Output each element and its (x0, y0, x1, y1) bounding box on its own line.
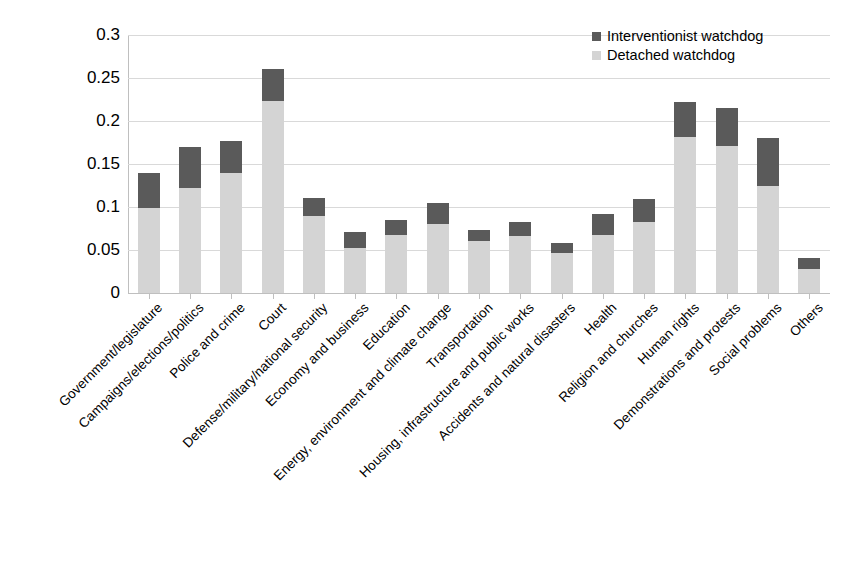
legend-item[interactable]: Interventionist watchdog (592, 27, 763, 46)
y-axis-tick-label: 0.05 (10, 241, 120, 258)
bar-segment-detached[interactable] (509, 236, 531, 293)
bar-segment-detached[interactable] (262, 101, 284, 293)
stacked-bar[interactable] (179, 147, 201, 293)
x-axis-tick-mark (479, 294, 480, 299)
stacked-bar[interactable] (716, 108, 738, 293)
bar-segment-interventionist[interactable] (220, 141, 242, 174)
y-axis-tick-label: 0.1 (10, 198, 120, 215)
bar-slot (293, 35, 334, 293)
bar-segment-interventionist[interactable] (468, 230, 490, 241)
bar-segment-interventionist[interactable] (757, 138, 779, 186)
stacked-bar[interactable] (427, 203, 449, 293)
x-axis-tick-mark (190, 294, 191, 299)
x-axis-tick-mark (562, 294, 563, 299)
x-axis-tick-mark (520, 294, 521, 299)
stacked-bar[interactable] (509, 222, 531, 293)
bar-slot (128, 35, 169, 293)
stacked-bar[interactable] (262, 69, 284, 293)
y-axis-tick-label: 0.15 (10, 155, 120, 172)
x-axis-tick-mark (727, 294, 728, 299)
bar-segment-interventionist[interactable] (592, 214, 614, 235)
bar-segment-detached[interactable] (551, 253, 573, 293)
bar-segment-interventionist[interactable] (633, 199, 655, 221)
bar-segment-detached[interactable] (303, 216, 325, 293)
bar-segment-interventionist[interactable] (385, 220, 407, 235)
bar-segment-detached[interactable] (798, 269, 820, 293)
bar-segment-detached[interactable] (468, 241, 490, 293)
stacked-bar[interactable] (220, 141, 242, 293)
bar-segment-interventionist[interactable] (798, 258, 820, 269)
stacked-bar[interactable] (674, 102, 696, 293)
bar-slot (376, 35, 417, 293)
stacked-bar[interactable] (138, 173, 160, 293)
x-axis-category-labels: Government/legislatureCampaigns/election… (0, 300, 850, 550)
x-axis-tick-mark (273, 294, 274, 299)
x-axis-tick-mark (149, 294, 150, 299)
bar-segment-interventionist[interactable] (674, 102, 696, 137)
y-axis-tick-label: 0.3 (10, 26, 120, 43)
legend-swatch-icon (592, 32, 601, 41)
bar-segment-interventionist[interactable] (262, 69, 284, 101)
stacked-bar[interactable] (592, 214, 614, 293)
bar-segment-detached[interactable] (716, 146, 738, 293)
bar-segment-interventionist[interactable] (138, 173, 160, 208)
chart-legend: Interventionist watchdogDetached watchdo… (592, 27, 763, 65)
bar-slot (582, 35, 623, 293)
bar-slot (500, 35, 541, 293)
bar-slot (541, 35, 582, 293)
stacked-bar[interactable] (385, 220, 407, 293)
bar-slot (624, 35, 665, 293)
bar-slot (789, 35, 830, 293)
legend-label: Interventionist watchdog (607, 27, 763, 46)
bar-slot (665, 35, 706, 293)
bar-segment-interventionist[interactable] (551, 243, 573, 253)
bar-slot (458, 35, 499, 293)
stacked-bar[interactable] (798, 258, 820, 293)
x-axis-tick-mark (355, 294, 356, 299)
bar-segment-interventionist[interactable] (179, 147, 201, 188)
stacked-bar[interactable] (757, 138, 779, 293)
bar-segment-detached[interactable] (179, 188, 201, 293)
legend-item[interactable]: Detached watchdog (592, 46, 763, 65)
bar-slot (334, 35, 375, 293)
bar-segment-interventionist[interactable] (303, 198, 325, 217)
bar-slot (706, 35, 747, 293)
x-axis-tick-mark (768, 294, 769, 299)
bar-segment-detached[interactable] (633, 222, 655, 293)
x-axis-tick-mark (809, 294, 810, 299)
bar-slot (252, 35, 293, 293)
bar-segment-detached[interactable] (344, 248, 366, 293)
legend-swatch-icon (592, 51, 601, 60)
x-axis-tick-mark (314, 294, 315, 299)
x-axis-tick-mark (644, 294, 645, 299)
y-axis-tick-label: 0.25 (10, 69, 120, 86)
bar-segment-detached[interactable] (220, 173, 242, 293)
x-axis-tick-mark (231, 294, 232, 299)
x-axis-tick-mark (603, 294, 604, 299)
bar-segment-interventionist[interactable] (344, 232, 366, 248)
bar-segment-detached[interactable] (427, 224, 449, 293)
stacked-bar[interactable] (551, 243, 573, 293)
bar-segment-interventionist[interactable] (509, 222, 531, 237)
stacked-bar[interactable] (633, 199, 655, 293)
bar-segment-detached[interactable] (592, 235, 614, 293)
stacked-bar[interactable] (303, 198, 325, 293)
bar-slot (417, 35, 458, 293)
y-axis-tick-label: 0 (10, 284, 120, 301)
bar-segment-detached[interactable] (138, 208, 160, 293)
bar-segment-interventionist[interactable] (427, 203, 449, 225)
stacked-bar[interactable] (468, 230, 490, 293)
bar-slot (747, 35, 788, 293)
stacked-bar[interactable] (344, 232, 366, 293)
x-axis-tick-mark (438, 294, 439, 299)
bar-segment-interventionist[interactable] (716, 108, 738, 146)
y-axis-tick-label: 0.2 (10, 112, 120, 129)
x-axis-tick-mark (685, 294, 686, 299)
stacked-bar-chart: 0.30.250.20.150.10.050 Government/legisl… (0, 0, 850, 567)
legend-label: Detached watchdog (607, 46, 735, 65)
y-axis-tick-labels: 0.30.250.20.150.10.050 (0, 35, 120, 293)
bar-segment-detached[interactable] (674, 137, 696, 293)
plot-area (128, 35, 830, 293)
bar-segment-detached[interactable] (385, 235, 407, 293)
bar-segment-detached[interactable] (757, 186, 779, 293)
